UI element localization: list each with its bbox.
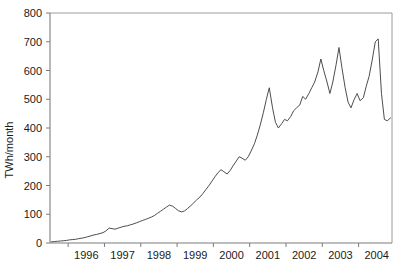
x-axis-tick-label: 2000	[219, 249, 243, 261]
y-axis-tick-label: 800	[24, 7, 42, 19]
y-axis-title: TWh/month	[3, 122, 15, 179]
y-axis-tick-label: 500	[24, 93, 42, 105]
chart-background	[0, 0, 407, 265]
x-axis-tick-label: 2004	[365, 249, 389, 261]
y-axis-tick-label: 0	[36, 237, 42, 249]
y-axis-tick-label: 200	[24, 180, 42, 192]
y-axis-tick-label: 400	[24, 122, 42, 134]
x-axis-tick-label: 2002	[292, 249, 316, 261]
x-axis-tick-label: 1999	[183, 249, 207, 261]
x-axis-tick-label: 2003	[328, 249, 352, 261]
y-axis-tick-label: 700	[24, 36, 42, 48]
x-axis-tick-label: 2001	[256, 249, 280, 261]
y-axis-tick-label: 100	[24, 208, 42, 220]
x-axis-tick-label: 1997	[110, 249, 134, 261]
y-axis-tick-label: 300	[24, 151, 42, 163]
chart-figure: 0100200300400500600700800 19961997199819…	[0, 0, 407, 265]
y-axis-tick-label: 600	[24, 65, 42, 77]
line-chart: 0100200300400500600700800 19961997199819…	[0, 0, 407, 265]
x-axis-tick-label: 1996	[74, 249, 98, 261]
x-axis-tick-label: 1998	[147, 249, 171, 261]
